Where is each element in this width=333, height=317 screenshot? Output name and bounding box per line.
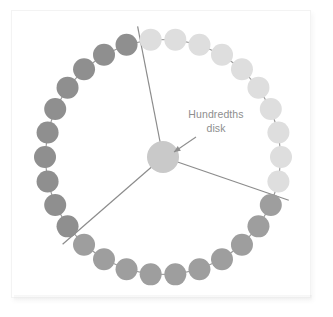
hundredths-disk-hub xyxy=(147,141,179,173)
bead xyxy=(44,194,66,216)
bead xyxy=(140,29,162,51)
bead xyxy=(140,263,162,285)
bead xyxy=(267,121,289,143)
bead xyxy=(267,171,289,193)
bead xyxy=(116,34,138,56)
bead xyxy=(73,58,95,80)
bead xyxy=(57,215,79,237)
bead xyxy=(116,258,138,280)
bead xyxy=(231,58,253,80)
bead xyxy=(260,194,282,216)
divider-lower-left xyxy=(63,157,163,244)
hundredths-disk-diagram xyxy=(0,0,333,317)
bead xyxy=(73,234,95,256)
bead xyxy=(57,77,79,99)
bead xyxy=(247,215,269,237)
bead xyxy=(231,234,253,256)
bead xyxy=(93,44,115,66)
bead xyxy=(247,77,269,99)
bead xyxy=(211,44,233,66)
bead xyxy=(211,248,233,270)
hundredths-disk-label-line1: Hundredths xyxy=(188,108,243,120)
bead xyxy=(188,258,210,280)
center-hub-group xyxy=(147,141,179,173)
bead xyxy=(270,146,292,168)
bead xyxy=(93,248,115,270)
figure-root: Hundredths disk xyxy=(0,0,333,317)
bead xyxy=(164,29,186,51)
bead xyxy=(44,98,66,120)
annotation-arrow-group xyxy=(174,137,196,152)
bead xyxy=(37,121,59,143)
bead xyxy=(164,263,186,285)
bead xyxy=(34,146,56,168)
bead xyxy=(188,34,210,56)
bead xyxy=(37,171,59,193)
hundredths-disk-label-line2: disk xyxy=(168,121,264,135)
hundredths-disk-label: Hundredths disk xyxy=(168,107,264,135)
